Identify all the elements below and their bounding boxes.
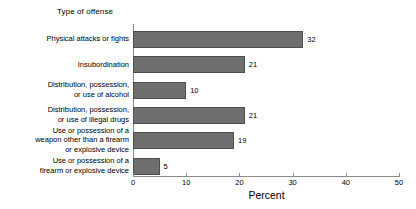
x-axis-tick <box>133 173 134 177</box>
bar-row: 32 <box>133 31 399 48</box>
bar-value-label: 5 <box>164 162 168 171</box>
x-axis-tick <box>346 173 347 177</box>
x-axis-tick <box>239 173 240 177</box>
x-axis-tick-label: 20 <box>227 178 251 187</box>
bar <box>133 107 245 124</box>
x-axis-tick <box>186 173 187 177</box>
plot-area: 32 21 10 21 19 5 <box>133 24 399 176</box>
x-axis-tick-label: 40 <box>334 178 358 187</box>
category-axis-title: Type of offense <box>57 7 113 16</box>
x-axis-title: Percent <box>133 189 400 201</box>
bar-row: 5 <box>133 158 399 175</box>
x-axis-tick-label: 30 <box>281 178 305 187</box>
category-label: Physical attacks or fights <box>0 34 129 44</box>
x-axis-tick <box>399 173 400 177</box>
bar <box>133 31 303 48</box>
bar-chart: Type of offense Physical attacks or figh… <box>0 0 416 209</box>
bar-value-label: 32 <box>307 35 315 44</box>
x-axis-tick-label: 10 <box>174 178 198 187</box>
bar-value-label: 19 <box>238 136 246 145</box>
category-label: Use or possession of a weapon other than… <box>0 126 129 155</box>
bar-row: 21 <box>133 107 399 124</box>
x-axis-tick-label: 50 <box>387 178 411 187</box>
category-label: Distribution, possession, or use of ille… <box>0 105 129 124</box>
bar-row: 10 <box>133 82 399 99</box>
category-label: Distribution, possession, or use of alco… <box>0 80 129 99</box>
bar-value-label: 10 <box>190 86 198 95</box>
bar-row: 21 <box>133 56 399 73</box>
x-axis-line <box>133 176 400 177</box>
x-axis-tick <box>293 173 294 177</box>
category-label: Insubordination <box>0 60 129 70</box>
bar <box>133 56 245 73</box>
bar-row: 19 <box>133 132 399 149</box>
bar-value-label: 21 <box>249 111 257 120</box>
x-axis-tick-label: 0 <box>121 178 145 187</box>
bar <box>133 158 160 175</box>
category-label: Use or possession of a firearm or explos… <box>0 156 129 175</box>
bar <box>133 132 234 149</box>
bar-value-label: 21 <box>249 60 257 69</box>
bar <box>133 82 186 99</box>
